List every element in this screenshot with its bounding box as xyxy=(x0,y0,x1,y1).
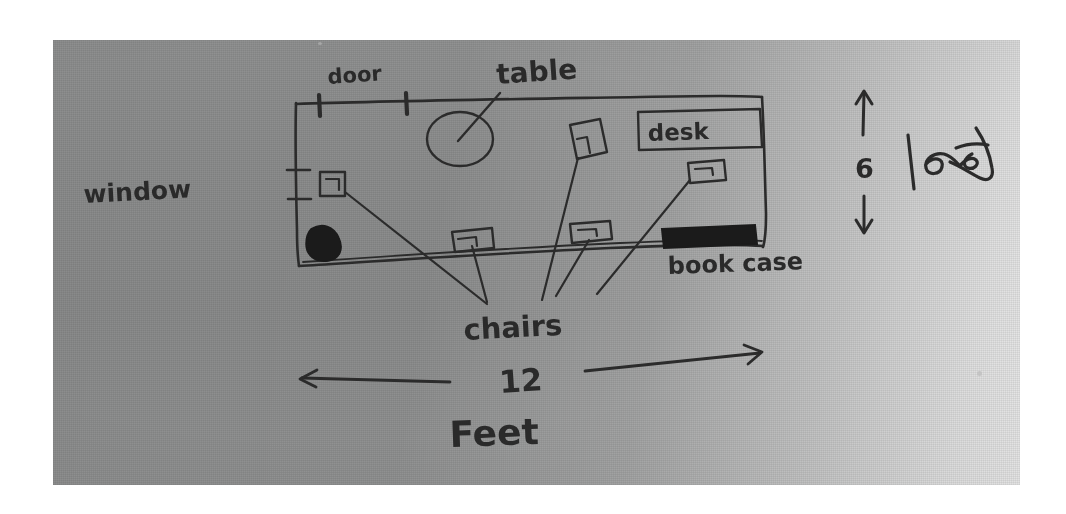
room-wall-top xyxy=(296,96,762,104)
label-door: door xyxy=(327,61,383,89)
chair-square-1 xyxy=(320,172,345,196)
door-tick-right xyxy=(406,93,407,114)
label-width-value: 12 xyxy=(498,361,544,400)
sketch-ink-layer: door window table desk book case xyxy=(0,0,1066,514)
height-arrow-up xyxy=(863,92,864,135)
height-unit-t-cross xyxy=(956,144,988,148)
room-wall-right xyxy=(762,97,766,247)
door-tick-left xyxy=(319,95,320,116)
label-desk: desk xyxy=(647,118,710,146)
label-bookcase: book case xyxy=(667,247,803,280)
label-window: window xyxy=(83,174,192,209)
room-wall-left xyxy=(296,103,299,266)
label-table: table xyxy=(495,52,578,91)
chair-seat-mark-4 xyxy=(458,237,477,246)
screenshot-canvas: door window table desk book case xyxy=(0,0,1066,514)
label-width-unit: Feet xyxy=(449,411,540,455)
label-height-unit-group xyxy=(908,128,992,189)
label-height-value: 6 xyxy=(855,153,874,184)
chair-seat-mark-5 xyxy=(578,229,597,236)
label-chairs: chairs xyxy=(463,308,564,347)
bookcase-feature xyxy=(662,225,757,248)
chair-leader-line-2 xyxy=(542,158,578,300)
chair-seat-mark-1 xyxy=(326,179,339,190)
bookcase-bar xyxy=(662,225,757,248)
width-arrow-right xyxy=(585,353,760,371)
corner-blob xyxy=(306,226,341,262)
width-arrow-left xyxy=(302,378,450,382)
door-feature xyxy=(319,93,407,116)
chair-square-2 xyxy=(570,119,607,159)
window-feature xyxy=(287,170,311,199)
height-unit-ell xyxy=(908,135,914,189)
chair-seat-mark-3 xyxy=(695,168,713,175)
chair-leader-line-5 xyxy=(556,240,589,296)
chair-seat-mark-2 xyxy=(577,137,590,153)
table-feature xyxy=(427,93,500,166)
chair-square-5 xyxy=(570,221,612,243)
chair-leader-line-1 xyxy=(345,192,487,304)
chairs-feature xyxy=(320,119,726,304)
chair-square-3 xyxy=(688,160,726,183)
